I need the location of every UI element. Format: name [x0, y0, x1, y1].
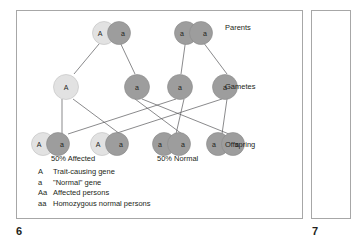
parent-1-allele-left-label: A [98, 30, 103, 37]
offspring-3[interactable]: a a [153, 133, 191, 156]
offspring-2-allele-right-circle[interactable] [106, 133, 129, 156]
offspring-1[interactable]: A a [32, 133, 70, 156]
row-label-gametes: Gametes [225, 83, 255, 91]
row-label-offspring: Offspring [225, 141, 255, 149]
outcome-label-affected: 50% Affected [51, 155, 95, 163]
legend-item-Aa: Aa Affected persons [38, 188, 238, 199]
parent-1[interactable]: A a [93, 22, 131, 45]
gamete-3-label: a [178, 84, 182, 91]
offspring-3-allele-right-label: a [181, 141, 185, 148]
offspring-1-allele-right-label: a [60, 141, 64, 148]
offspring-1-allele-left-label: A [37, 141, 42, 148]
parent-1-allele-right-circle[interactable] [108, 22, 131, 45]
gamete-1-label: A [64, 84, 69, 91]
offspring-1-allele-right-circle[interactable] [47, 133, 70, 156]
link-gamete2-offspring3 [135, 99, 182, 134]
link-gamete1-offspring2 [73, 99, 120, 134]
link-gamete3-offspring3 [176, 99, 184, 134]
page-number-right: 7 [312, 226, 318, 237]
parent-2-allele-right-label: a [203, 30, 207, 37]
parent-2[interactable]: a a [175, 22, 213, 45]
gamete-3[interactable]: a [168, 75, 193, 100]
row-label-parents: Parents [225, 24, 251, 32]
gamete-1[interactable]: A [54, 75, 79, 100]
legend-item-A: A Trait-causing gene [38, 167, 238, 178]
legend-symbol-aa: aa [38, 199, 53, 210]
offspring-2-allele-left-label: A [96, 141, 101, 148]
legend-text-Aa: Affected persons [53, 188, 109, 199]
gamete-2[interactable]: a [125, 75, 150, 100]
parent-2-allele-right-circle[interactable] [190, 22, 213, 45]
legend-text-a: "Normal" gene [53, 178, 101, 189]
offspring-4-allele-left-label: a [212, 141, 216, 148]
legend-symbol-A: A [38, 167, 53, 178]
link-gamete2-offspring4 [142, 99, 229, 134]
legend-symbol-Aa: Aa [38, 188, 53, 199]
gametes-row: A a a a [54, 75, 238, 100]
link-gamete4-offspring4 [222, 99, 227, 134]
link-gamete3-offspring1 [68, 99, 176, 134]
parent-1-allele-right-label: a [121, 30, 125, 37]
figure-panel-next [311, 10, 351, 219]
gamete-offspring-links [62, 99, 229, 134]
offspring-row: A a A a a a a a [32, 133, 245, 156]
legend: A Trait-causing gene a "Normal" gene Aa … [38, 167, 238, 209]
offspring-2-allele-right-label: a [119, 141, 123, 148]
outcome-label-normal: 50% Normal [157, 155, 198, 163]
parents-row: A a a a [93, 22, 213, 45]
offspring-2[interactable]: A a [91, 133, 129, 156]
legend-symbol-a: a [38, 178, 53, 189]
legend-item-a: a "Normal" gene [38, 178, 238, 189]
link-gamete4-offspring2 [114, 99, 222, 134]
legend-text-A: Trait-causing gene [53, 167, 115, 178]
gamete-2-label: a [135, 84, 139, 91]
legend-text-aa: Homozygous normal persons [53, 199, 151, 210]
offspring-3-allele-right-circle[interactable] [168, 133, 191, 156]
offspring-3-allele-left-label: a [158, 141, 162, 148]
legend-item-aa: aa Homozygous normal persons [38, 199, 238, 210]
page-number-left: 6 [16, 226, 22, 237]
parent-2-allele-left-label: a [180, 30, 184, 37]
